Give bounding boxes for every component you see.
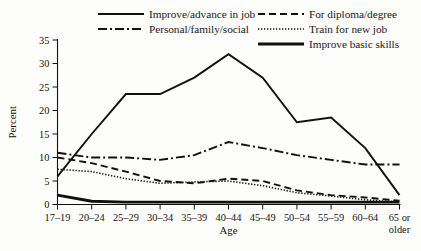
x-tick-label: 55–59 [318,212,344,223]
x-tick-label: 40–44 [216,212,243,223]
y-tick-label: 0 [44,199,49,210]
chart-figure: Improve/advance in job Personal/family/s… [0,0,421,251]
y-axis-title: Percent [6,106,18,138]
y-tick-label: 5 [44,176,49,187]
x-tick-label: 25–29 [113,212,139,223]
y-axis: 05101520253035 [39,35,57,211]
y-tick-label: 25 [39,82,49,93]
series-line-personal-family-social [58,142,400,165]
x-tick-label: 65 orolder [389,212,411,235]
x-tick-label: 60–64 [352,212,379,223]
x-tick-label: 17–19 [45,212,71,223]
series-line-for-diploma-degree [58,158,400,201]
x-axis-title: Age [220,224,238,236]
chart-plot-area: 05101520253035 17–1920–2425–2930–3435–39… [0,0,421,251]
series-line-improve-advance-in-job [58,54,400,195]
y-tick-label: 15 [39,129,49,140]
series-line-train-for-new-job [58,169,400,202]
x-tick-label: 50–54 [284,212,311,223]
y-tick-label: 10 [39,152,49,163]
x-tick-label: 35–39 [181,212,207,223]
series-line-improve-basic-skills [58,195,400,202]
chart-series-group [58,54,400,202]
x-tick-label: 30–34 [147,212,174,223]
y-tick-label: 35 [39,35,49,46]
x-tick-label: 20–24 [79,212,106,223]
y-tick-label: 30 [39,58,49,69]
x-tick-label: 45–49 [250,212,276,223]
y-tick-label: 20 [39,105,49,116]
